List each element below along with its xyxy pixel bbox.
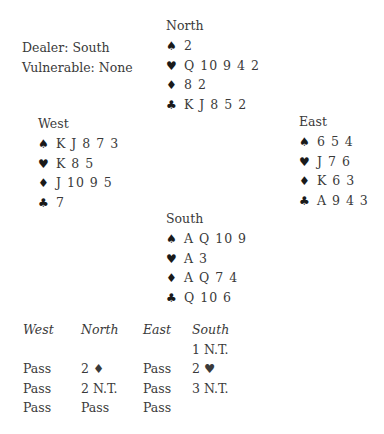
club-icon: ♣ (299, 192, 313, 212)
north-spades: 2 (184, 38, 193, 53)
diamond-icon: ♦ (166, 76, 180, 96)
east-hand: East ♠ 6 5 4 ♥ J 7 6 ♦ K 6 3 ♣ A 9 4 3 (299, 112, 369, 210)
bid: Pass (143, 398, 171, 418)
east-diamonds: K 6 3 (317, 173, 355, 188)
east-clubs: A 9 4 3 (317, 193, 369, 208)
club-icon: ♣ (38, 194, 52, 214)
spade-icon: ♠ (38, 135, 52, 155)
north-hand: North ♠ 2 ♥ Q 10 9 4 2 ♦ 8 2 ♣ K J 8 5 2 (166, 16, 260, 114)
auction-header-east: East (143, 320, 171, 340)
bid: Pass (81, 398, 109, 418)
club-icon: ♣ (166, 96, 180, 116)
north-hearts: Q 10 9 4 2 (184, 58, 260, 73)
west-title: West (38, 114, 119, 134)
spade-icon: ♠ (299, 133, 313, 153)
bid: 2 ♥ (192, 359, 215, 379)
dealer-label: Dealer: South (22, 38, 133, 58)
west-diamonds: J 10 9 5 (56, 175, 113, 190)
heart-icon: ♥ (299, 153, 313, 173)
bid: Pass (143, 359, 171, 379)
diamond-icon: ♦ (166, 269, 180, 289)
east-hearts: J 7 6 (317, 154, 351, 169)
auction-header-north: North (81, 320, 119, 340)
east-title: East (299, 112, 369, 132)
west-spades: K J 8 7 3 (56, 136, 119, 151)
north-clubs: K J 8 5 2 (184, 97, 247, 112)
heart-icon: ♥ (38, 155, 52, 175)
diamond-icon: ♦ (299, 172, 313, 192)
north-diamonds: 8 2 (184, 77, 207, 92)
south-spades: A Q 10 9 (184, 231, 247, 246)
north-title: North (166, 16, 260, 36)
heart-icon: ♥ (166, 250, 180, 270)
club-icon: ♣ (166, 289, 180, 309)
south-hand: South ♠ A Q 10 9 ♥ A 3 ♦ A Q 7 4 ♣ Q 10 … (166, 209, 247, 307)
west-hand: West ♠ K J 8 7 3 ♥ K 8 5 ♦ J 10 9 5 ♣ 7 (38, 114, 119, 212)
spade-icon: ♠ (166, 37, 180, 57)
diamond-icon: ♦ (38, 174, 52, 194)
south-clubs: Q 10 6 (184, 290, 232, 305)
south-title: South (166, 209, 247, 229)
bid: Pass (23, 359, 51, 379)
deal-info: Dealer: South Vulnerable: None (22, 38, 133, 77)
auction-header-south: South (192, 320, 229, 340)
bid: 2 ♦ (81, 359, 104, 379)
bid: 2 N.T. (81, 379, 118, 399)
east-spades: 6 5 4 (317, 134, 354, 149)
auction-header-west: West (23, 320, 54, 340)
bid: 3 N.T. (192, 379, 229, 399)
west-hearts: K 8 5 (56, 156, 94, 171)
bid: 1 N.T. (192, 340, 229, 360)
spade-icon: ♠ (166, 230, 180, 250)
south-diamonds: A Q 7 4 (184, 270, 238, 285)
bid: Pass (23, 398, 51, 418)
south-hearts: A 3 (184, 251, 208, 266)
bid: Pass (143, 379, 171, 399)
west-clubs: 7 (56, 195, 65, 210)
heart-icon: ♥ (166, 57, 180, 77)
vulnerable-label: Vulnerable: None (22, 58, 133, 78)
bid: Pass (23, 379, 51, 399)
